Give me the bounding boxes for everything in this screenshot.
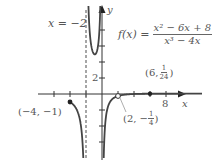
x-tick-label-8: 8: [162, 99, 168, 109]
function-name: f(x) =: [118, 29, 150, 40]
right-prefix: (6,: [145, 68, 158, 78]
hole-suffix: ): [154, 114, 158, 124]
x-axis-label: x: [182, 99, 188, 109]
right-den: 24: [158, 73, 169, 81]
point-marker-hole: [116, 94, 121, 99]
asymptote-label: x = −2: [48, 18, 87, 29]
point-marker-left: [68, 100, 73, 105]
function-formula: f(x) = x² − 6x + 8 x³ − 4x: [118, 22, 212, 47]
right-fraction: 1 24: [158, 64, 169, 81]
right-num: 1: [161, 64, 167, 73]
curve-branch-left: [70, 102, 85, 167]
y-tick-label-2: 2: [92, 73, 98, 83]
point-label-left: (−4, −1): [18, 107, 62, 117]
point-label-right: (6, 1 24 ): [145, 64, 173, 81]
y-axis-label: y: [107, 5, 113, 15]
hole-prefix: (2, −: [123, 114, 148, 124]
point-label-hole: (2, − 1 4 ): [123, 110, 158, 127]
right-suffix: ): [169, 68, 173, 78]
point-marker-right: [148, 92, 152, 96]
function-numerator: x² − 6x + 8: [153, 22, 213, 35]
function-denominator: x³ − 4x: [163, 35, 201, 47]
function-fraction: x² − 6x + 8 x³ − 4x: [153, 22, 213, 47]
